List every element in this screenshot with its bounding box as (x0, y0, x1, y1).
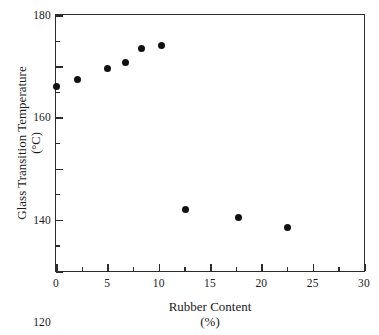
y-axis-tick-label: 160 (33, 111, 51, 123)
x-axis-tick-label: 0 (53, 277, 59, 289)
y-axis-tick-minor (56, 194, 60, 195)
data-point (104, 65, 111, 72)
x-axis-title-text: Rubber Content (55, 300, 365, 315)
x-axis-tick-label: 10 (153, 277, 165, 289)
y-axis-unit-text: (°C) (29, 66, 43, 219)
x-axis-tick-label: 20 (255, 277, 267, 289)
data-point (158, 42, 165, 49)
x-axis-tick-major: 30 (364, 264, 366, 271)
y-axis-tick-minor (56, 245, 60, 246)
plot-area: 80100120140160180051015202530 (55, 14, 365, 272)
x-axis-tick-major: 20 (261, 264, 263, 271)
y-axis-title: Glass Transition Temperature (°C) (14, 14, 44, 272)
x-axis-tick-minor (338, 267, 339, 271)
y-axis-tick-minor (56, 143, 60, 144)
x-axis-unit-text: (%) (55, 315, 365, 330)
y-axis-tick-major: 160 (56, 66, 63, 68)
y-axis-tick-major: 100 (56, 220, 63, 222)
y-axis-tick-label: 140 (33, 214, 51, 226)
y-axis-tick-major: 180 (56, 15, 63, 17)
x-axis-tick-major: 25 (313, 264, 315, 271)
x-axis-tick-minor (82, 267, 83, 271)
x-axis-tick-minor (236, 267, 237, 271)
y-axis-tick-minor (56, 41, 60, 42)
x-axis-tick-label: 15 (204, 277, 216, 289)
data-point (235, 214, 242, 221)
data-point (74, 76, 81, 83)
x-axis-tick-label: 30 (358, 277, 370, 289)
scatter-chart-figure: Glass Transition Temperature (°C) 801001… (0, 0, 379, 335)
x-axis-tick-minor (287, 267, 288, 271)
x-axis-title: Rubber Content (%) (55, 300, 365, 330)
x-axis-tick-major: 15 (210, 264, 212, 271)
x-axis-tick-major: 5 (107, 264, 109, 271)
y-axis-tick-major: 120 (56, 169, 63, 171)
y-axis-tick-label: 120 (33, 316, 51, 328)
y-axis-tick-major: 140 (56, 117, 63, 119)
data-point (182, 206, 189, 213)
y-axis-tick-minor (56, 92, 60, 93)
y-axis-tick-label: 180 (33, 9, 51, 21)
data-point (284, 224, 291, 231)
y-axis-title-text: Glass Transition Temperature (14, 66, 29, 219)
x-axis-tick-minor (184, 267, 185, 271)
data-point (138, 45, 145, 52)
data-point (122, 59, 129, 66)
data-point (53, 83, 60, 90)
x-axis-tick-label: 25 (307, 277, 319, 289)
x-axis-tick-major: 10 (159, 264, 161, 271)
y-axis-tick-major: 80 (56, 271, 63, 273)
x-axis-tick-label: 5 (104, 277, 110, 289)
x-axis-tick-major: 0 (56, 264, 58, 271)
x-axis-tick-minor (133, 267, 134, 271)
